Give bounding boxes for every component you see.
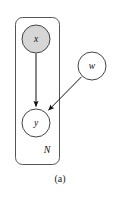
- node-x-label: x: [33, 34, 39, 44]
- edge-w-to-y: [49, 77, 82, 111]
- figure-caption: (a): [54, 173, 65, 185]
- node-x[interactable]: x: [22, 25, 50, 53]
- figure-root: N x y w (a): [0, 0, 119, 198]
- edge-w-to-y-line: [49, 77, 82, 111]
- node-y[interactable]: y: [22, 109, 50, 137]
- node-w[interactable]: w: [78, 52, 106, 80]
- graphical-model-diagram: N x y w (a): [0, 0, 119, 198]
- plate-N-label: N: [43, 144, 52, 155]
- node-w-label: w: [89, 61, 96, 71]
- node-y-label: y: [33, 118, 39, 128]
